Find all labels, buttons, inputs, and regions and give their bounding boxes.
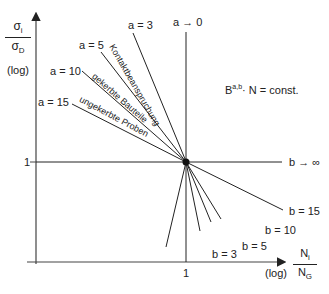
diagram-canvas [0, 0, 329, 294]
label-b3: b = 3 [212, 249, 237, 260]
y-num: σ [13, 19, 20, 33]
y-num-sub: i [21, 26, 23, 35]
line-a3-lower [166, 162, 186, 247]
y-den-sub: D [19, 47, 25, 56]
x-axis-scale: (log) [265, 268, 287, 279]
label-b15: b = 15 [289, 206, 320, 217]
x-den: N [298, 266, 306, 278]
y-den: σ [11, 39, 18, 53]
x-axis-label: Ni NG [293, 248, 317, 281]
x-axis-tick-label: 1 [183, 268, 189, 279]
label-a0: a → 0 [173, 17, 202, 28]
x-num: N [300, 247, 308, 259]
label-a15: a = 15 [38, 97, 69, 108]
label-b10: b = 10 [265, 225, 296, 236]
formula-label: Ba,b· N = const. [225, 83, 299, 96]
label-a10: a = 10 [50, 66, 81, 77]
y-axis-scale: (log) [7, 65, 29, 76]
formula-rest: · N = const. [242, 84, 299, 96]
x-num-sub: i [308, 253, 310, 262]
label-a3: a = 3 [128, 20, 153, 31]
label-a5: a = 5 [79, 40, 104, 51]
intersection-point [183, 159, 190, 166]
y-axis-tick-label: 1 [24, 157, 30, 168]
formula-sup: a,b [232, 83, 242, 90]
line-b5 [186, 162, 200, 231]
label-b5: b = 5 [242, 241, 267, 252]
y-axis-label: σi σD [5, 20, 31, 56]
x-den-sub: G [306, 272, 312, 281]
label-b-infinity: b → ∞ [289, 157, 320, 168]
